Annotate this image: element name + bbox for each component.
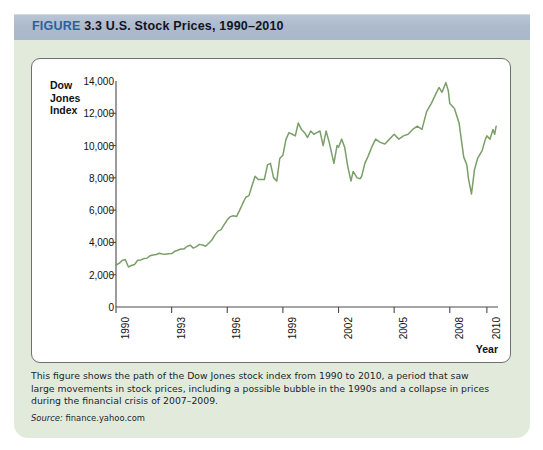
figure-header-bar: FIGURE 3.3 U.S. Stock Prices, 1990–2010	[14, 14, 530, 40]
x-tick-label: 1993	[176, 317, 187, 339]
plot-area: Dow Jones Index 02,0004,0006,0008,00010,…	[32, 59, 512, 364]
x-axis-title: Year	[476, 343, 498, 355]
x-tick-label: 1999	[287, 317, 298, 339]
x-axis-ticks	[116, 307, 487, 313]
line-chart-svg	[32, 59, 512, 364]
y-axis-ticks	[110, 113, 116, 274]
x-tick-label: 2010	[491, 317, 502, 339]
x-tick-label: 1990	[120, 317, 131, 339]
figure-title-label: U.S. Stock Prices, 1990–2010	[106, 19, 284, 33]
x-tick-label: 2008	[454, 317, 465, 339]
x-tick-label: 1996	[231, 317, 242, 339]
caption-area: This figure shows the path of the Dow Jo…	[31, 370, 511, 423]
x-tick-label: 2002	[343, 317, 354, 339]
caption-source: Source: finance.yahoo.com	[31, 413, 511, 423]
figure-header-text: FIGURE 3.3 U.S. Stock Prices, 1990–2010	[32, 19, 284, 33]
axes-group	[110, 81, 498, 313]
figure-root: FIGURE 3.3 U.S. Stock Prices, 1990–2010 …	[0, 0, 543, 450]
source-value: finance.yahoo.com	[65, 413, 145, 423]
figure-number-label: 3.3	[84, 19, 102, 33]
caption-body: This figure shows the path of the Dow Jo…	[31, 370, 491, 408]
figure-word-label: FIGURE	[32, 19, 80, 33]
x-tick-label: 2005	[398, 317, 409, 339]
chart-card: Dow Jones Index 02,0004,0006,0008,00010,…	[31, 58, 511, 363]
source-label: Source:	[31, 413, 63, 423]
dow-jones-line	[116, 83, 496, 267]
